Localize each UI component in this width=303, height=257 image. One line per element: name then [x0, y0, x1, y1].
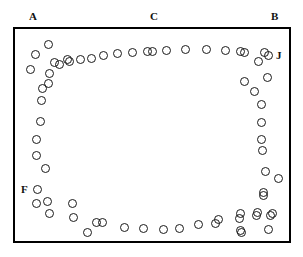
data-point-marker [32, 151, 41, 160]
data-point-marker [260, 48, 269, 57]
data-point-marker [32, 135, 41, 144]
data-point-marker [36, 117, 45, 126]
data-point-marker [99, 51, 108, 60]
data-point-marker [235, 214, 244, 223]
label-C: C [150, 11, 158, 22]
data-point-marker [37, 96, 46, 105]
data-point-marker [32, 199, 41, 208]
data-point-marker [202, 45, 211, 54]
scatter-figure: ACBJF [0, 0, 303, 257]
data-point-marker [175, 224, 184, 233]
data-point-marker [250, 87, 259, 96]
label-F: F [21, 184, 28, 195]
data-point-marker [38, 84, 47, 93]
data-point-marker [120, 223, 129, 232]
data-point-marker [159, 225, 168, 234]
data-point-marker [33, 185, 42, 194]
data-point-marker [264, 225, 273, 234]
data-point-marker [43, 197, 52, 206]
data-point-marker [240, 48, 249, 57]
data-point-marker [257, 118, 266, 127]
data-point-marker [83, 228, 92, 237]
label-A: A [29, 11, 37, 22]
data-point-marker [259, 191, 268, 200]
data-point-marker [113, 49, 122, 58]
data-point-marker [263, 73, 272, 82]
data-point-marker [31, 50, 40, 59]
data-point-marker [68, 199, 77, 208]
data-point-marker [87, 54, 96, 63]
data-point-marker [139, 224, 148, 233]
data-point-marker [221, 46, 230, 55]
data-point-marker [162, 46, 171, 55]
data-point-marker [181, 45, 190, 54]
data-point-marker [128, 48, 137, 57]
data-point-marker [240, 77, 249, 86]
data-point-marker [45, 209, 54, 218]
data-point-marker [194, 220, 203, 229]
data-point-marker [55, 60, 64, 69]
data-point-marker [211, 219, 220, 228]
data-point-marker [254, 57, 263, 66]
data-point-marker [261, 167, 270, 176]
data-point-marker [44, 40, 53, 49]
data-point-marker [41, 164, 50, 173]
data-point-marker [257, 135, 266, 144]
data-point-marker [148, 47, 157, 56]
data-point-marker [237, 228, 246, 237]
data-point-marker [266, 211, 275, 220]
data-point-marker [76, 55, 85, 64]
data-point-marker [258, 146, 267, 155]
data-point-marker [92, 218, 101, 227]
data-point-marker [252, 211, 261, 220]
data-point-marker [26, 65, 35, 74]
data-point-marker [45, 69, 54, 78]
label-J: J [276, 50, 282, 61]
data-point-marker [69, 213, 78, 222]
data-point-marker [257, 100, 266, 109]
label-B: B [271, 11, 278, 22]
data-point-marker [274, 174, 283, 183]
data-point-marker [65, 57, 74, 66]
